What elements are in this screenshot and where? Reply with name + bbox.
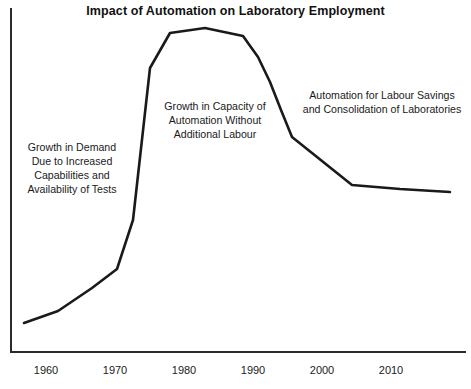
- x-tick-label-2010: 2010: [379, 364, 403, 376]
- annotation-growth-in-demand: Growth in Demand Due to Increased Capabi…: [8, 140, 136, 196]
- chart-figure: Impact of Automation on Laboratory Emplo…: [0, 0, 471, 389]
- x-tick-label-1990: 1990: [241, 364, 265, 376]
- x-tick-label-2000: 2000: [310, 364, 334, 376]
- x-tick-label-1970: 1970: [103, 364, 127, 376]
- x-tick-label-1960: 1960: [34, 364, 58, 376]
- annotation-automation-labour-savings: Automation for Labour Savings and Consol…: [296, 88, 468, 116]
- annotation-growth-in-capacity: Growth in Capacity of Automation Without…: [142, 99, 288, 141]
- x-tick-label-1980: 1980: [172, 364, 196, 376]
